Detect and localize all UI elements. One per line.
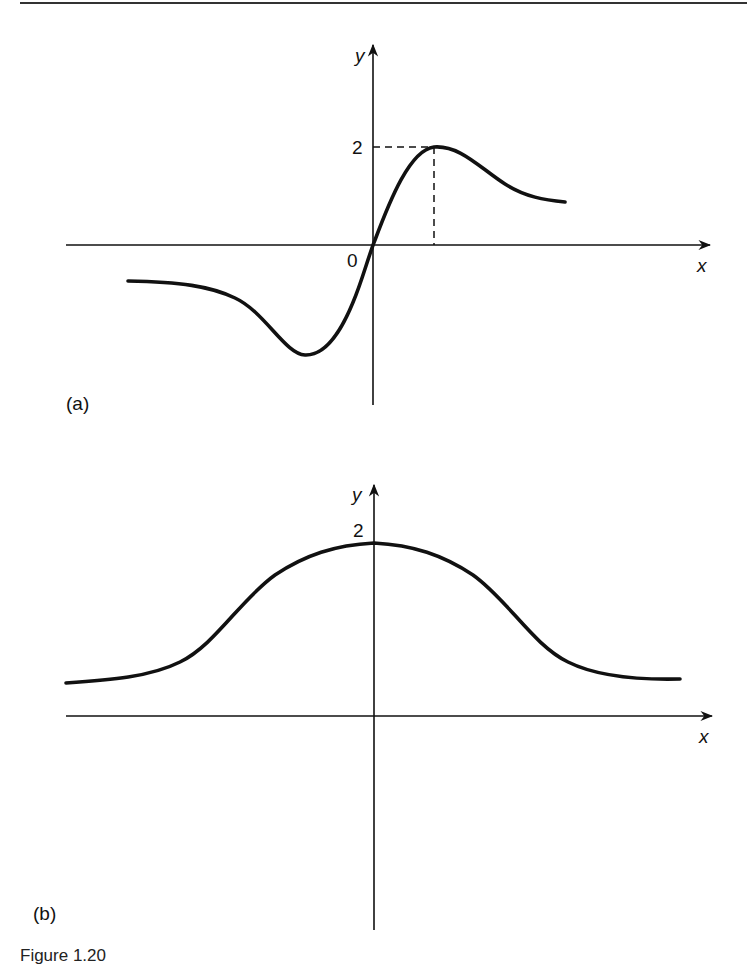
curve-b	[66, 543, 680, 683]
panel-label-a: (a)	[66, 393, 89, 414]
figure-caption: Figure 1.20	[20, 946, 106, 966]
y-axis-label-b: y	[350, 484, 363, 505]
origin-label-a: 0	[347, 250, 358, 271]
x-axis-label-a: x	[696, 255, 708, 276]
panel-b: y x 2 (b)	[33, 484, 712, 930]
y-tick-2-b: 2	[353, 520, 364, 541]
y-tick-2-a: 2	[352, 137, 363, 158]
y-axis-label-a: y	[353, 45, 366, 66]
panel-label-b: (b)	[33, 903, 56, 924]
panel-a: y x 0 2 (a)	[66, 45, 710, 414]
x-axis-label-b: x	[698, 726, 710, 747]
